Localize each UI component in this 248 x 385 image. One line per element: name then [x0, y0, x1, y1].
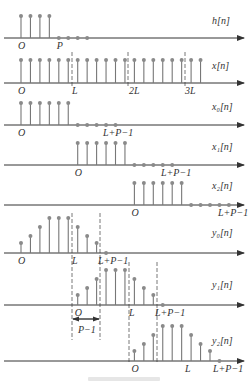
- signal-label: x₂[n]: [211, 180, 233, 191]
- signal-label: y₁[n]: [211, 279, 233, 290]
- tick-label: L+P−1: [212, 363, 243, 374]
- overlap-add-diagram: h[n]OPx[n]OL2L3Lx₀[n]OL+P−1x₁[n]OL+P−1x₂…: [0, 0, 248, 385]
- row-x1: x₁[n]OL+P−1: [4, 141, 244, 178]
- row-x: x[n]OL2L3L: [4, 58, 244, 96]
- signal-label: x₁[n]: [211, 141, 233, 152]
- zero-dot: [132, 163, 136, 167]
- signal-label: y₂[n]: [211, 335, 233, 346]
- tick-label: L+P−1: [154, 307, 185, 318]
- stem-dot: [19, 101, 23, 105]
- stem-dot: [142, 342, 146, 346]
- stem-dot: [161, 324, 165, 328]
- stem-dot: [132, 181, 136, 185]
- stem-dot: [132, 349, 136, 353]
- zero-dot: [199, 203, 203, 207]
- tick-label: L: [184, 363, 191, 374]
- stem-dot: [66, 216, 70, 220]
- stem-dot: [180, 324, 184, 328]
- zero-dot: [189, 203, 193, 207]
- tick-label: L+P−1: [160, 167, 191, 178]
- stem-dot: [57, 101, 61, 105]
- figure-caption: [88, 377, 160, 381]
- tick-label: L+P−1: [217, 207, 248, 218]
- stem-dot: [161, 181, 165, 185]
- stem-dot: [95, 58, 99, 62]
- tick-label: L: [71, 255, 78, 266]
- tick-label: L: [71, 85, 78, 96]
- tick-label: O: [18, 40, 25, 51]
- stem-dot: [47, 216, 51, 220]
- stem-dot: [199, 342, 203, 346]
- stem-dot: [180, 181, 184, 185]
- zero-dot: [208, 203, 212, 207]
- tick-label: O: [18, 255, 25, 266]
- stem-dot: [104, 58, 108, 62]
- stem-dot: [38, 101, 42, 105]
- stem-dot: [66, 101, 70, 105]
- tick-label: P: [56, 40, 63, 51]
- bracket-label: P−1: [77, 324, 96, 335]
- stem-dot: [76, 225, 80, 229]
- stem-dot: [123, 141, 127, 145]
- stem-dot: [95, 241, 99, 245]
- stem-dot: [76, 141, 80, 145]
- stem-dot: [19, 241, 23, 245]
- stem-dot: [123, 58, 127, 62]
- stem-dot: [104, 141, 108, 145]
- stem-dot: [123, 268, 127, 272]
- stem-dot: [28, 14, 32, 18]
- zero-dot: [95, 123, 99, 127]
- stem-dot: [114, 268, 118, 272]
- stem-dot: [47, 14, 51, 18]
- zero-dot: [151, 163, 155, 167]
- tick-label: L+P−1: [97, 255, 128, 266]
- zero-dot: [142, 163, 146, 167]
- tick-label: 2L: [129, 85, 140, 96]
- stem-dot: [85, 234, 89, 238]
- stem-dot: [151, 293, 155, 297]
- stem-dot: [142, 286, 146, 290]
- signal-label: x[n]: [211, 60, 229, 71]
- stem-dot: [28, 58, 32, 62]
- stem-dot: [85, 286, 89, 290]
- stem-dot: [38, 14, 42, 18]
- stem-dot: [180, 58, 184, 62]
- stem-dot: [142, 181, 146, 185]
- zero-dot: [66, 36, 70, 40]
- row-x0: x₀[n]OL+P−1: [4, 101, 244, 138]
- stem-dot: [57, 58, 61, 62]
- stem-dot: [95, 277, 99, 281]
- stem-dot: [208, 349, 212, 353]
- stem-dot: [28, 101, 32, 105]
- stem-dot: [199, 58, 203, 62]
- tick-label: O: [75, 307, 82, 318]
- stem-dot: [38, 58, 42, 62]
- stem-dot: [76, 58, 80, 62]
- stem-dot: [76, 293, 80, 297]
- stem-dot: [151, 333, 155, 337]
- stem-dot: [38, 225, 42, 229]
- stem-dot: [19, 14, 23, 18]
- stem-dot: [19, 58, 23, 62]
- stem-dot: [151, 58, 155, 62]
- stem-dot: [132, 277, 136, 281]
- stem-dot: [170, 324, 174, 328]
- stem-dot: [142, 58, 146, 62]
- stem-dot: [47, 58, 51, 62]
- tick-label: L+P−1: [102, 127, 133, 138]
- stem-dot: [66, 58, 70, 62]
- stem-dot: [170, 58, 174, 62]
- tick-label: 3L: [184, 85, 196, 96]
- signal-label: h[n]: [212, 15, 230, 26]
- stem-dot: [85, 141, 89, 145]
- row-y0: y₀[n]OLL+P−1: [4, 216, 244, 266]
- tick-label: O: [131, 207, 138, 218]
- stem-dot: [114, 58, 118, 62]
- row-x2: x₂[n]OL+P−1: [4, 180, 248, 218]
- stem-dot: [104, 268, 108, 272]
- stem-dot: [189, 58, 193, 62]
- stem-dot: [47, 101, 51, 105]
- stem-dot: [57, 216, 61, 220]
- zero-dot: [85, 36, 89, 40]
- stem-dot: [189, 333, 193, 337]
